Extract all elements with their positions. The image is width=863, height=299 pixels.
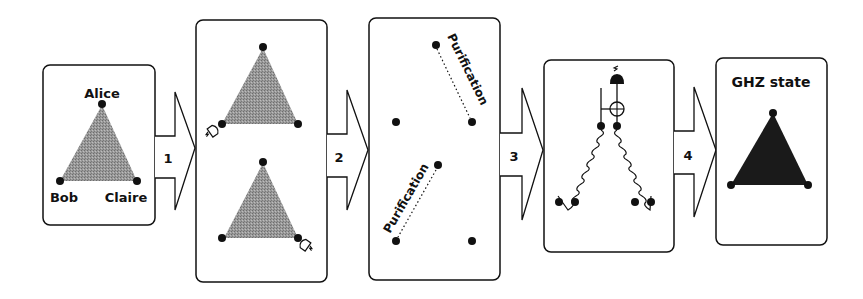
- ghz-title: GHZ state: [732, 74, 811, 90]
- step-number: 3: [509, 149, 518, 164]
- panel-purification: Purification Purification: [369, 18, 500, 280]
- node-alice: [98, 100, 106, 108]
- label-claire: Claire: [105, 190, 148, 205]
- panel-distribution: [196, 20, 327, 282]
- node-claire: [133, 177, 141, 185]
- arrow-step-1: 1: [155, 92, 195, 210]
- panel-gate-operation: [544, 60, 674, 252]
- panel-initial-state: Alice Bob Claire: [43, 65, 155, 225]
- arrow-step-3: 3: [500, 88, 543, 220]
- label-bob: Bob: [50, 190, 78, 205]
- arrow-step-4: 4: [674, 87, 716, 217]
- step-number: 1: [163, 151, 172, 166]
- arrow-step-2: 2: [327, 90, 368, 210]
- ghz-protocol-diagram: Alice Bob Claire 1 2: [0, 0, 863, 299]
- step-number: 4: [683, 148, 692, 163]
- step-number: 2: [334, 150, 343, 165]
- node-bob: [56, 177, 64, 185]
- panel-ghz-state: GHZ state: [716, 58, 827, 245]
- label-alice: Alice: [84, 86, 120, 101]
